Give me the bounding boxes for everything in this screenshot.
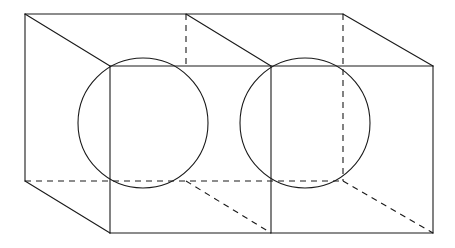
top-mid-depth-edge [186, 14, 271, 66]
back-bottom-mid-depth-edge [186, 181, 271, 233]
top-right-depth-edge [343, 14, 433, 66]
geometric-figure [0, 0, 455, 248]
circle-group [78, 58, 370, 188]
prism-with-circles-diagram [0, 0, 455, 248]
right-circle [240, 58, 370, 188]
top-left-depth-edge [25, 14, 110, 66]
hidden-edge-group [25, 14, 433, 233]
visible-edge-group [25, 14, 433, 233]
back-bottom-right-depth-edge [343, 181, 433, 233]
left-circle [78, 58, 208, 188]
bottom-left-depth-edge [25, 181, 110, 233]
